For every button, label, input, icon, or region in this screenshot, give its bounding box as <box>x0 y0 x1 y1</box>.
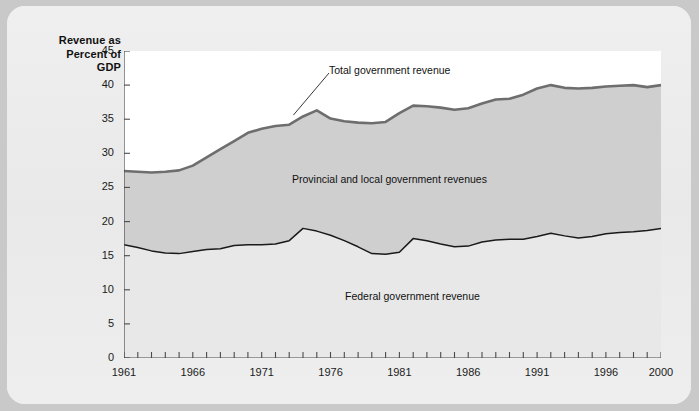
y-axis-tick-label: 0 <box>84 351 114 363</box>
x-axis-tick-label: 1991 <box>514 366 560 378</box>
y-axis-title-line-3: GDP <box>21 61 121 75</box>
annotation-leader-line <box>293 73 329 115</box>
screenshot-root: Revenue as Percent of GDP 05101520253035… <box>0 0 699 411</box>
x-axis-tick-label: 1966 <box>170 366 216 378</box>
annotation-provincial-revenue: Provincial and local government revenues <box>292 173 487 185</box>
y-axis-tick-label: 45 <box>84 44 114 56</box>
y-axis-tick-label: 25 <box>84 180 114 192</box>
plot-area <box>124 51 661 358</box>
y-axis-tick-label: 20 <box>84 215 114 227</box>
y-axis-tick-label: 40 <box>84 78 114 90</box>
y-axis-tick-label: 30 <box>84 146 114 158</box>
y-axis-tick-label: 10 <box>84 283 114 295</box>
chart-card: Revenue as Percent of GDP 05101520253035… <box>7 6 691 404</box>
x-axis-tick-label: 1971 <box>239 366 285 378</box>
y-axis-tick-label: 35 <box>84 112 114 124</box>
annotation-federal-revenue: Federal government revenue <box>345 290 480 302</box>
x-axis-tick-label: 1996 <box>583 366 629 378</box>
x-axis-tick-label: 2000 <box>638 366 684 378</box>
y-axis-tick-label: 15 <box>84 249 114 261</box>
y-axis-tick-label: 5 <box>84 317 114 329</box>
area-chart <box>124 51 661 358</box>
x-axis-tick-label: 1976 <box>308 366 354 378</box>
x-axis-tick-label: 1981 <box>376 366 422 378</box>
x-axis-tick-label: 1986 <box>445 366 491 378</box>
provincial-revenue-band <box>124 85 661 254</box>
x-axis-tick-label: 1961 <box>101 366 147 378</box>
annotation-total-revenue: Total government revenue <box>329 64 450 76</box>
